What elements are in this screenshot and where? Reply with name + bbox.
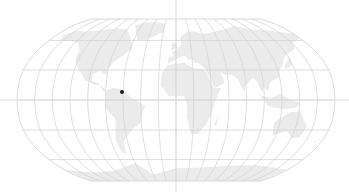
landmass-australia [273, 111, 308, 138]
landmass-south-america [105, 88, 146, 154]
landmass-indonesia [260, 94, 301, 109]
landmass-madagascar [214, 112, 220, 125]
world-map[interactable] [0, 0, 349, 192]
landmass-new-zealand [307, 138, 322, 146]
location-marker-dot[interactable] [120, 90, 124, 94]
landmass-uk [171, 42, 177, 50]
map-canvas[interactable] [0, 0, 349, 192]
